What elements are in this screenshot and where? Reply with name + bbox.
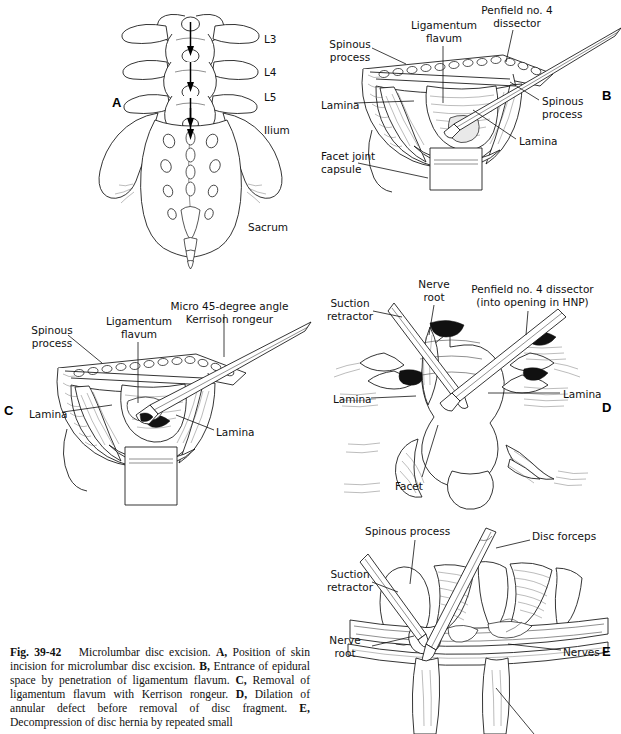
label-spinous-process-right-b: Spinousprocess bbox=[542, 95, 583, 120]
label-ligamentum-flavum-b: Ligamentumflavum bbox=[403, 19, 485, 44]
panel-letter-e: E bbox=[602, 644, 611, 659]
label-l3: L3 bbox=[264, 33, 277, 46]
label-facet-d: Facet bbox=[395, 480, 423, 493]
retractor-blade-c bbox=[125, 447, 177, 505]
panel-letter-d: D bbox=[602, 400, 611, 415]
label-nerve-root-d: Nerveroot bbox=[405, 278, 463, 303]
panel-a: L3 L4 L5 Ilium Sacrum A bbox=[0, 0, 310, 270]
panel-letter-c: C bbox=[4, 403, 13, 418]
label-l5: L5 bbox=[264, 91, 277, 104]
panel-letter-a: A bbox=[112, 95, 121, 110]
figure-caption: Fig. 39-42 Microlumbar disc excision. A,… bbox=[10, 646, 310, 731]
surgical-wound-exposure-c bbox=[57, 322, 311, 505]
label-lamina-right-c: Lamina bbox=[216, 426, 255, 439]
label-spinous-process-c: Spinousprocess bbox=[18, 324, 86, 349]
disc-decompression-e bbox=[348, 528, 608, 734]
label-sacrum: Sacrum bbox=[248, 221, 288, 234]
label-ilium: Ilium bbox=[264, 124, 290, 137]
label-penfield-dissector-d: Penfield no. 4 dissector(into opening in… bbox=[465, 283, 600, 308]
panel-b: Spinousprocess Ligamentumflavum Penfield… bbox=[310, 0, 621, 190]
label-lamina-right-d: Lamina bbox=[563, 388, 602, 401]
annular-defect-exposure-d bbox=[334, 303, 588, 509]
label-lamina-left-b: Lamina bbox=[321, 99, 360, 112]
label-nerves-e: Nerves bbox=[563, 646, 600, 659]
panel-e-illustration bbox=[310, 510, 621, 734]
label-spinous-process-e: Spinous process bbox=[365, 525, 450, 538]
label-spinous-process-left-b: Spinousprocess bbox=[316, 38, 384, 63]
panel-d: Suctionretractor Nerveroot Penfield no. … bbox=[310, 275, 621, 515]
panel-e: Spinous process Disc forceps Suctionretr… bbox=[310, 510, 621, 734]
label-nerve-root-e: Nerveroot bbox=[316, 634, 374, 659]
label-suction-retractor-e: Suctionretractor bbox=[316, 568, 384, 593]
figure-number: Fig. 39-42 bbox=[10, 646, 61, 659]
label-facet-joint-capsule-b: Facet jointcapsule bbox=[321, 150, 375, 175]
panel-letter-b: B bbox=[602, 88, 611, 103]
label-l4: L4 bbox=[264, 66, 277, 79]
label-disc-forceps-e: Disc forceps bbox=[532, 530, 596, 543]
panel-c: Spinousprocess Ligamentumflavum Micro 45… bbox=[0, 275, 311, 505]
label-penfield-dissector-b: Penfield no. 4dissector bbox=[475, 4, 559, 29]
retractor-blade-b bbox=[430, 148, 482, 190]
label-lamina-left-c: Lamina bbox=[29, 408, 68, 421]
label-kerrison-rongeur-c: Micro 45-degree angleKerrison rongeur bbox=[162, 300, 297, 325]
label-suction-retractor-d: Suctionretractor bbox=[316, 297, 384, 322]
label-lamina-right-b: Lamina bbox=[519, 135, 558, 148]
label-lamina-left-d: Lamina bbox=[333, 393, 372, 406]
